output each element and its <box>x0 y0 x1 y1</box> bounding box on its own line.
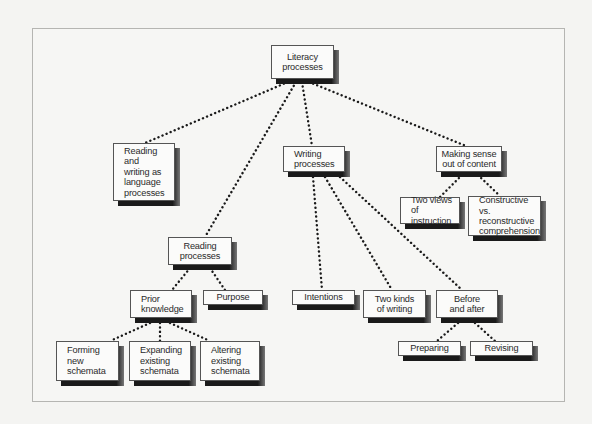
node-label: Expanding existing schemata <box>129 341 191 381</box>
node-making-sense: Making sense out of content <box>436 146 502 172</box>
node-label: Reading processes <box>168 237 232 265</box>
node-reading-processes: Reading processes <box>168 237 232 265</box>
node-label: Altering existing schemata <box>200 341 260 381</box>
node-writing-processes: Writing processes <box>283 146 345 172</box>
node-label: Prior knowledge <box>130 290 192 318</box>
node-label: Before and after <box>436 290 498 318</box>
node-label: Purpose <box>203 290 263 305</box>
node-label: Two views of instruction <box>400 197 460 224</box>
node-expanding: Expanding existing schemata <box>129 341 191 381</box>
node-forming: Forming new schemata <box>56 341 119 381</box>
node-revising: Revising <box>470 341 533 356</box>
node-prior-knowledge: Prior knowledge <box>130 290 192 318</box>
node-constructive: Constructive vs. reconstructive comprehe… <box>468 196 541 236</box>
node-altering: Altering existing schemata <box>200 341 260 381</box>
node-intentions: Intentions <box>292 290 355 305</box>
node-label: Two kinds of writing <box>363 290 426 318</box>
node-purpose: Purpose <box>203 290 263 305</box>
node-label: Reading and writing as language processe… <box>113 143 175 201</box>
node-label: Revising <box>470 341 533 356</box>
node-label: Preparing <box>398 341 461 356</box>
node-label: Literacy processes <box>271 45 334 79</box>
node-label: Writing processes <box>283 146 345 172</box>
node-two-views: Two views of instruction <box>400 197 460 224</box>
node-two-kinds: Two kinds of writing <box>363 290 426 318</box>
node-reading-writing-language: Reading and writing as language processe… <box>113 143 175 201</box>
node-label: Forming new schemata <box>56 341 119 381</box>
node-preparing: Preparing <box>398 341 461 356</box>
node-label: Intentions <box>292 290 355 305</box>
node-label: Constructive vs. reconstructive comprehe… <box>468 196 541 236</box>
node-literacy: Literacy processes <box>271 45 334 79</box>
node-before-after: Before and after <box>436 290 498 318</box>
node-label: Making sense out of content <box>436 146 502 172</box>
